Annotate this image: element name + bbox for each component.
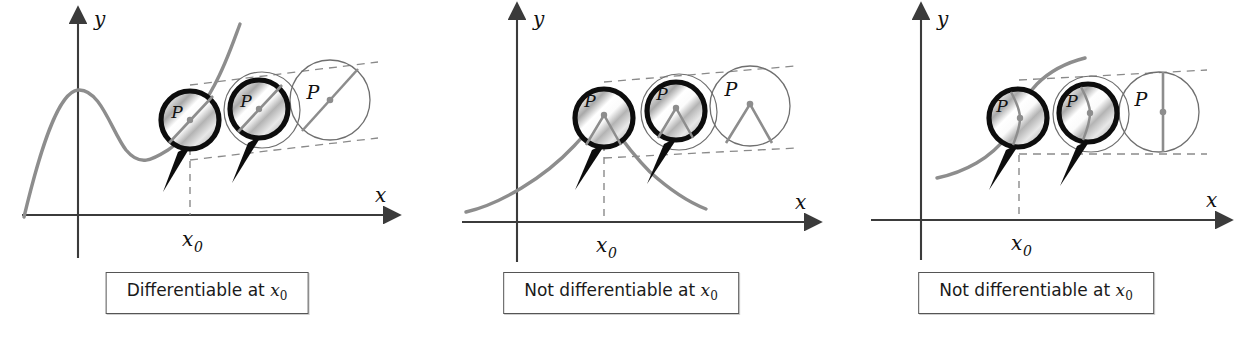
caption-var: x [270,280,280,300]
differentiability-figure: P P P y x x [0,0,1243,347]
point-p-dot [327,97,334,104]
zoom-stage-2: P [1053,76,1129,186]
zoom-stage-1: P [989,89,1047,190]
zoom-stage-2: P [641,74,717,184]
x0-sub: 0 [194,239,203,255]
plain-circle [1119,72,1199,152]
axes [871,18,1217,260]
point-p-label: P [170,102,183,122]
panel-corner-graphic: P P P y x x 0 [414,0,828,270]
magnifier-handle [1060,139,1091,186]
magnifier-handle [575,143,606,190]
point-p-dot [1017,115,1023,121]
caption-prefix: Not differentiable at [939,280,1115,300]
caption-text: Differentiable at x0 [127,280,288,300]
x0-tick-label: x 0 [182,227,203,255]
point-p-label: P [655,84,668,104]
y-axis-label: y [936,7,949,31]
caption-var: x [1116,280,1126,300]
point-p-label: P [1065,91,1078,111]
x0-var: x [1011,231,1022,255]
point-p-dot [1087,110,1093,116]
x0-var: x [182,227,193,251]
y-axis-label: y [93,7,106,31]
point-p-dot [601,112,607,118]
x-axis-label: x [1206,188,1217,212]
x0-sub: 0 [1023,243,1032,259]
axes [462,18,806,262]
panel-differentiable: P P P y x x [0,0,414,347]
caption-text: Not differentiable at x0 [939,280,1133,300]
magnifier-handle [647,137,678,184]
caption-prefix: Not differentiable at [524,280,700,300]
panel-vertical-tangent: P P P y x x 0 [829,0,1243,347]
x0-sub: 0 [608,245,617,261]
point-p-label: P [239,91,252,111]
zoom-stage-3: P [710,66,790,146]
zoom-stage-3: P [1119,72,1199,152]
magnifier-handle [232,135,262,183]
magnified-corner [726,104,772,143]
point-p-dot [187,117,193,123]
x0-var: x [596,233,607,257]
caption-box-corner: Not differentiable at x0 [503,272,739,314]
zoom-stage-3: P [290,60,370,140]
point-p-dot [256,106,262,112]
point-p-label: P [1134,88,1149,110]
point-p-dot [673,105,679,111]
panel-corner: P P P y x x 0 [414,0,828,347]
caption-box-vertical-tangent: Not differentiable at x0 [918,272,1154,314]
caption-sub: 0 [1125,289,1133,303]
zoom-stage-2: P [224,72,300,183]
caption-sub: 0 [710,289,718,303]
x0-tick-label: x 0 [596,233,617,261]
point-p-dot [1160,109,1167,116]
y-axis-label: y [532,7,545,31]
point-p-label: P [583,91,596,111]
caption-sub: 0 [280,289,288,303]
caption-text: Not differentiable at x0 [524,280,718,300]
point-p-label: P [724,78,739,100]
caption-prefix: Differentiable at [127,280,271,300]
caption-box-differentiable: Differentiable at x0 [106,272,309,314]
panel-differentiable-graphic: P P P y x x [0,0,414,270]
point-p-label: P [995,96,1008,116]
point-p-dot [747,101,754,108]
x-axis-label: x [375,183,386,207]
x0-tick-label: x 0 [1011,231,1032,259]
caption-var: x [701,280,711,300]
point-p-label: P [306,81,321,103]
panel-vertical-tangent-graphic: P P P y x x 0 [829,0,1243,270]
x-axis-label: x [795,190,806,214]
